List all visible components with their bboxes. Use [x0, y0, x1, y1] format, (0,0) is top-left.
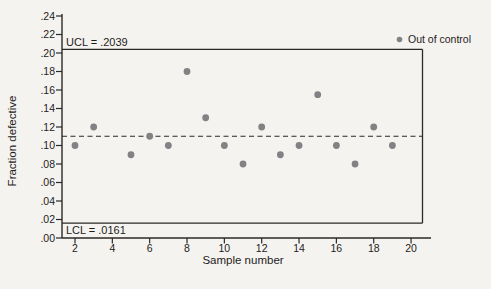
- data-point: [389, 142, 396, 149]
- lcl-label: LCL = .0161: [66, 224, 126, 236]
- y-tick-label: .12: [40, 121, 55, 133]
- x-tick-label: 16: [331, 242, 343, 254]
- data-point: [72, 142, 79, 149]
- control-chart-svg: .00.02.04.06.08.10.12.14.16.18.20.22.242…: [0, 0, 491, 289]
- y-tick-label: .18: [40, 65, 55, 77]
- data-point: [352, 161, 359, 168]
- data-point: [370, 124, 377, 131]
- data-point: [240, 161, 247, 168]
- x-tick-label: 4: [109, 242, 115, 254]
- y-tick-label: .10: [40, 139, 55, 151]
- x-tick-label: 20: [405, 242, 417, 254]
- x-tick-label: 12: [256, 242, 268, 254]
- data-point: [277, 151, 284, 158]
- x-tick-label: 18: [368, 242, 380, 254]
- y-tick-label: .16: [40, 84, 55, 96]
- legend-marker-icon: [397, 37, 403, 43]
- x-tick-label: 10: [219, 242, 231, 254]
- ucl-label: UCL = .2039: [66, 36, 128, 48]
- control-chart-figure: .00.02.04.06.08.10.12.14.16.18.20.22.242…: [0, 0, 491, 289]
- y-tick-label: .02: [40, 213, 55, 225]
- x-tick-label: 2: [72, 242, 78, 254]
- data-point: [165, 142, 172, 149]
- y-axis-title: Fraction defective: [6, 96, 18, 187]
- y-tick-label: .20: [40, 47, 55, 59]
- y-tick-label: .04: [40, 195, 55, 207]
- x-tick-label: 14: [293, 242, 305, 254]
- y-tick-label: .06: [40, 176, 55, 188]
- data-point: [90, 124, 97, 131]
- data-point: [202, 114, 209, 121]
- data-point: [221, 142, 228, 149]
- x-tick-label: 8: [184, 242, 190, 254]
- x-tick-label: 6: [147, 242, 153, 254]
- data-point: [314, 91, 321, 98]
- x-axis-title: Sample number: [202, 254, 283, 266]
- y-tick-label: .24: [40, 10, 55, 22]
- data-point: [333, 142, 340, 149]
- data-point: [146, 133, 153, 140]
- y-tick-label: .14: [40, 102, 55, 114]
- data-point: [128, 151, 135, 158]
- y-tick-label: .00: [40, 232, 55, 244]
- data-point: [296, 142, 303, 149]
- y-tick-label: .22: [40, 28, 55, 40]
- legend-label: Out of control: [408, 33, 471, 45]
- y-tick-label: .08: [40, 158, 55, 170]
- data-point: [258, 124, 265, 131]
- data-point: [184, 68, 191, 75]
